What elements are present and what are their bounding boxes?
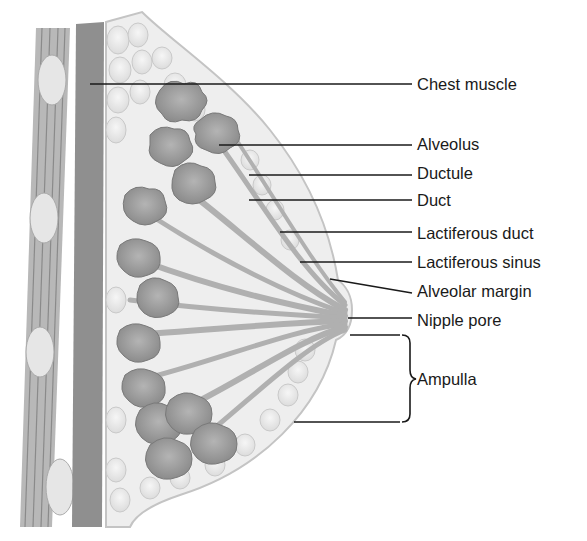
label-duct: Duct bbox=[417, 192, 451, 209]
chest-muscle-band bbox=[72, 22, 104, 527]
label-chest-muscle: Chest muscle bbox=[417, 76, 517, 93]
breast-anatomy-diagram: Chest muscle Alveolus Ductule Duct Lacti… bbox=[0, 0, 587, 541]
rib-wall bbox=[20, 28, 74, 527]
label-lactiferous-sinus: Lactiferous sinus bbox=[417, 254, 541, 271]
label-ampulla: Ampulla bbox=[417, 371, 477, 388]
label-lactiferous-duct: Lactiferous duct bbox=[417, 225, 533, 242]
label-alveolar-margin: Alveolar margin bbox=[417, 283, 532, 300]
label-ductule: Ductule bbox=[417, 165, 473, 182]
ampulla-brace bbox=[402, 335, 416, 422]
label-nipple-pore: Nipple pore bbox=[417, 312, 501, 329]
label-alveolus: Alveolus bbox=[417, 136, 479, 153]
